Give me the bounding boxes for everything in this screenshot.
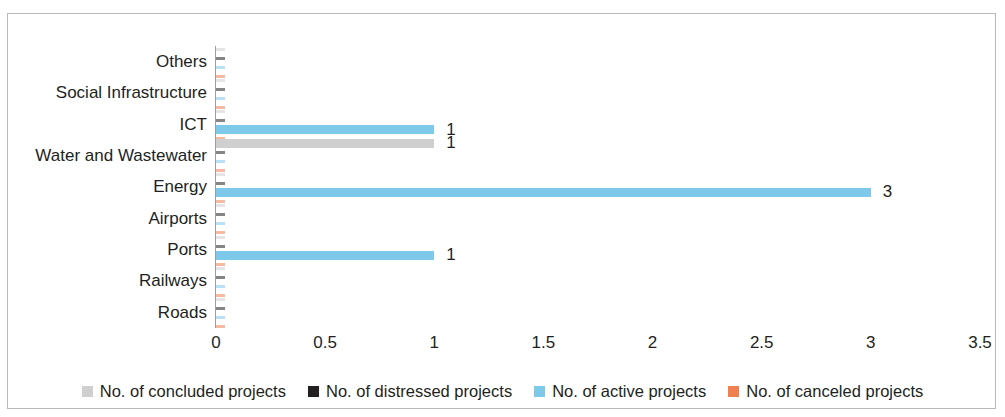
- legend-item[interactable]: No. of active projects: [534, 383, 706, 400]
- bar[interactable]: [216, 110, 225, 113]
- bar[interactable]: [216, 307, 225, 310]
- category-band: Airports: [216, 203, 980, 234]
- category-label: Energy: [153, 178, 207, 195]
- bar[interactable]: [216, 236, 225, 239]
- bar-row: 3: [216, 188, 980, 197]
- bar[interactable]: [216, 204, 225, 207]
- legend-item[interactable]: No. of concluded projects: [82, 383, 286, 400]
- bar-row: [216, 219, 980, 228]
- plot-area: OthersSocial InfrastructureICT1Water and…: [216, 46, 980, 328]
- bar[interactable]: [216, 213, 225, 216]
- bar[interactable]: [216, 173, 225, 176]
- bar-row: [216, 313, 980, 322]
- legend-label: No. of distressed projects: [326, 383, 512, 400]
- x-axis-tick-label: 0.5: [313, 334, 337, 351]
- bar-row: [216, 116, 980, 125]
- x-axis-tick-label: 3.5: [968, 334, 992, 351]
- bar[interactable]: [216, 285, 225, 288]
- bar[interactable]: [216, 79, 225, 82]
- bar[interactable]: [216, 316, 225, 319]
- category-label: Others: [156, 53, 207, 70]
- x-axis-tick-label: 0: [211, 334, 220, 351]
- bar-row: [216, 45, 980, 54]
- bar-row: [216, 107, 980, 116]
- bar-row: 1: [216, 125, 980, 134]
- bar[interactable]: [216, 119, 225, 122]
- category-label: Water and Wastewater: [35, 147, 207, 164]
- legend-swatch-icon: [308, 386, 319, 397]
- bar[interactable]: [216, 276, 225, 279]
- category-label: Roads: [158, 304, 207, 321]
- category-band: Social Infrastructure: [216, 77, 980, 108]
- bar[interactable]: [216, 251, 434, 260]
- bar-row: [216, 233, 980, 242]
- bar-row: [216, 170, 980, 179]
- x-axis-tick-label: 1.5: [532, 334, 556, 351]
- bar-row: [216, 63, 980, 72]
- bar-row: [216, 157, 980, 166]
- x-axis: 00.511.522.533.5: [216, 334, 980, 360]
- bar[interactable]: [216, 160, 225, 163]
- category-label: Social Infrastructure: [56, 84, 207, 101]
- x-axis-tick-label: 3: [866, 334, 875, 351]
- bar[interactable]: [216, 125, 434, 134]
- bar-row: [216, 264, 980, 273]
- bar-row: [216, 201, 980, 210]
- x-axis-tick-label: 2: [648, 334, 657, 351]
- bar-row: [216, 148, 980, 157]
- bar[interactable]: [216, 66, 225, 69]
- legend-label: No. of concluded projects: [100, 383, 286, 400]
- bar[interactable]: [216, 97, 225, 100]
- category-label: Ports: [167, 241, 207, 258]
- legend-label: No. of active projects: [552, 383, 706, 400]
- bar[interactable]: [216, 57, 225, 60]
- legend-swatch-icon: [728, 386, 739, 397]
- bar[interactable]: [216, 151, 225, 154]
- bar-row: [216, 76, 980, 85]
- legend-item[interactable]: No. of distressed projects: [308, 383, 512, 400]
- category-label: ICT: [180, 116, 207, 133]
- chart-legend: No. of concluded projectsNo. of distress…: [0, 383, 1005, 400]
- legend-swatch-icon: [82, 386, 93, 397]
- bar[interactable]: [216, 222, 225, 225]
- bar[interactable]: [216, 267, 225, 270]
- legend-swatch-icon: [534, 386, 545, 397]
- category-band: ICT1: [216, 109, 980, 140]
- bar-row: [216, 179, 980, 188]
- legend-label: No. of canceled projects: [746, 383, 923, 400]
- bar[interactable]: [216, 139, 434, 148]
- category-label: Airports: [148, 210, 207, 227]
- bar[interactable]: [216, 298, 225, 301]
- x-axis-tick-label: 2.5: [750, 334, 774, 351]
- category-band: Energy3: [216, 171, 980, 202]
- bar[interactable]: [216, 325, 225, 328]
- legend-item[interactable]: No. of canceled projects: [728, 383, 923, 400]
- category-band: Roads: [216, 297, 980, 328]
- bar-row: [216, 273, 980, 282]
- x-axis-tick-label: 1: [430, 334, 439, 351]
- bar-chart-figure: OthersSocial InfrastructureICT1Water and…: [0, 0, 1005, 417]
- category-band: Water and Wastewater1: [216, 140, 980, 171]
- bar[interactable]: [216, 245, 225, 248]
- bar-row: [216, 94, 980, 103]
- bar[interactable]: [216, 182, 225, 185]
- category-band: Ports1: [216, 234, 980, 265]
- bar-row: [216, 85, 980, 94]
- bar-row: [216, 295, 980, 304]
- bar-row: [216, 322, 980, 331]
- bar-row: [216, 242, 980, 251]
- bar-row: [216, 210, 980, 219]
- bar-row: [216, 304, 980, 313]
- category-label: Railways: [139, 272, 207, 289]
- bar[interactable]: [216, 48, 225, 51]
- bar-row: [216, 54, 980, 63]
- category-band: Railways: [216, 265, 980, 296]
- bar-row: [216, 282, 980, 291]
- bar[interactable]: [216, 88, 225, 91]
- category-band: Others: [216, 46, 980, 77]
- bar[interactable]: [216, 188, 871, 197]
- bar-row: 1: [216, 139, 980, 148]
- bar-row: 1: [216, 251, 980, 260]
